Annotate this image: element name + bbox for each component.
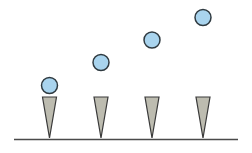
ball-3 [144, 32, 160, 48]
tee-cone-1 [43, 97, 57, 138]
ball-4 [195, 10, 211, 26]
ball-2 [93, 55, 109, 71]
tee-cone-4 [196, 97, 210, 138]
ball-1 [42, 78, 58, 94]
tees-and-balls-diagram [0, 0, 252, 153]
diagram-canvas [0, 0, 252, 153]
tee-cone-2 [94, 97, 108, 138]
tee-cone-3 [145, 97, 159, 138]
